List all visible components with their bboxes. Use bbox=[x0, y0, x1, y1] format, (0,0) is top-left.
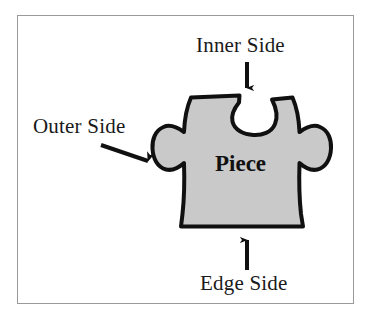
outer-side-arrow bbox=[101, 145, 148, 161]
label-piece: Piece bbox=[215, 152, 266, 175]
puzzle-piece-diagram: Inner Side Outer Side Edge Side Piece bbox=[0, 0, 372, 320]
label-edge-side: Edge Side bbox=[200, 273, 288, 294]
diagram-graphics bbox=[0, 0, 372, 320]
label-inner-side: Inner Side bbox=[196, 35, 285, 56]
label-outer-side: Outer Side bbox=[33, 116, 125, 137]
